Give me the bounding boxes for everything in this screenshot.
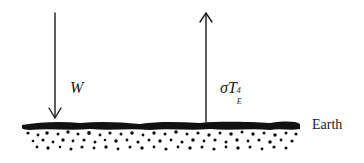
flux-base: σT (220, 79, 237, 96)
incoming-radiation-arrow (49, 13, 61, 118)
flux-superscript: 4 (237, 87, 241, 95)
earth-label: Earth (312, 118, 342, 132)
earth-surface (22, 122, 300, 151)
incoming-flux-label: W (70, 80, 83, 96)
outgoing-radiation-arrow (200, 13, 212, 122)
flux-subscript: E (237, 98, 242, 106)
energy-balance-diagram (0, 0, 364, 163)
soil-particles (26, 130, 297, 150)
outgoing-flux-label: σT4E (220, 80, 243, 96)
